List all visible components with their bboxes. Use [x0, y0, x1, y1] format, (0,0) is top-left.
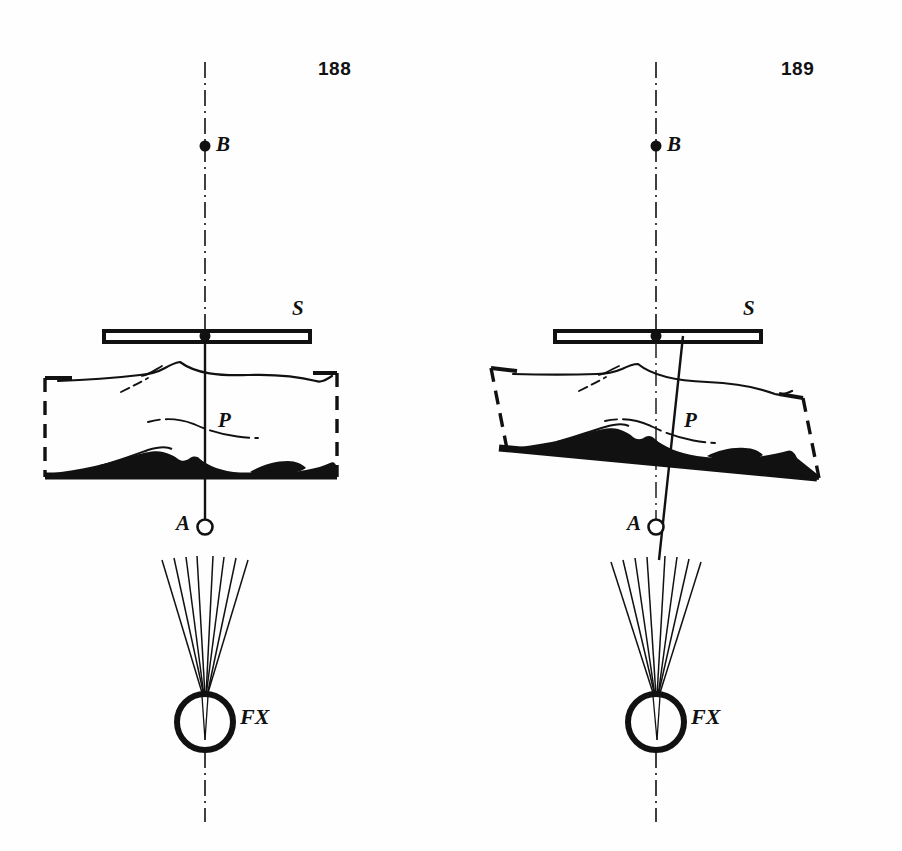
beam-fan	[611, 556, 701, 740]
cassette-center-dot	[651, 331, 662, 342]
label-p-189: P	[684, 408, 697, 433]
figure-188: 188	[0, 0, 451, 851]
focus-circle-fx	[177, 694, 233, 750]
label-a-188: A	[176, 511, 190, 536]
label-fx-189: FX	[691, 704, 720, 730]
figure-number-188: 188	[318, 58, 351, 80]
figure-189: 189	[451, 0, 902, 851]
figure-189-graphic	[451, 0, 902, 851]
patient-silhouette	[58, 362, 332, 438]
label-b-188: B	[216, 132, 230, 157]
patient-lower-mass	[47, 451, 337, 476]
point-a-circle	[198, 520, 213, 535]
body-extent-bracket-left	[491, 368, 533, 452]
label-p-188: P	[218, 408, 231, 433]
body-extent-bracket-left	[45, 378, 72, 477]
label-s-189: S	[743, 296, 755, 321]
label-a-189: A	[627, 511, 641, 536]
patient-silhouette	[513, 364, 792, 443]
label-fx-188: FX	[240, 704, 269, 730]
point-b-dot	[651, 141, 662, 152]
figure-number-189: 189	[781, 58, 814, 80]
label-s-188: S	[292, 296, 304, 321]
diagram-canvas: 188	[0, 0, 902, 851]
body-extent-bracket-right	[313, 373, 337, 477]
beam-fan	[162, 556, 248, 740]
label-b-189: B	[667, 132, 681, 157]
point-a-circle	[649, 520, 664, 535]
point-b-dot	[200, 141, 211, 152]
